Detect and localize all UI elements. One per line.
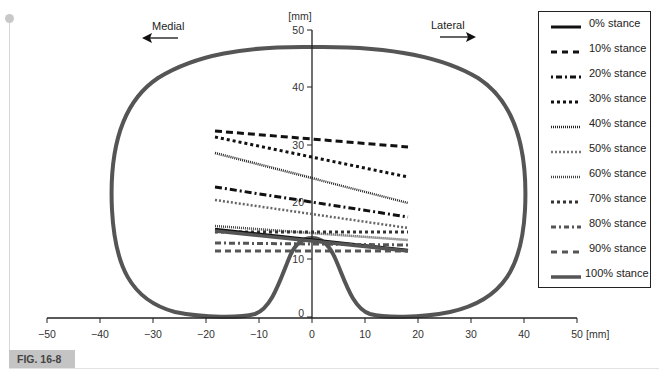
legend-item-60: 60% stance xyxy=(539,166,652,191)
legend-label: 100% stance xyxy=(585,267,649,279)
legend-item-40: 40% stance xyxy=(539,116,652,141)
legend-item-10: 10% stance xyxy=(539,41,652,66)
legend-label: 60% stance xyxy=(589,167,646,179)
x-tick-label: −30 xyxy=(144,328,162,340)
legend-label: 20% stance xyxy=(589,67,646,79)
x-tick-label: 0 xyxy=(309,328,315,340)
legend: 0% stance 10% stance 20% stance 30% stan… xyxy=(538,11,651,288)
y-tick-label: 10 xyxy=(292,253,304,265)
x-tick-label: −10 xyxy=(250,328,268,340)
x-tick-label: 30 xyxy=(465,328,477,340)
legend-label: 0% stance xyxy=(589,17,640,29)
x-tick-label: −50 xyxy=(38,328,56,340)
x-tick-label: 10 xyxy=(359,328,371,340)
legend-item-70: 70% stance xyxy=(539,191,652,216)
legend-item-30: 30% stance xyxy=(539,91,652,116)
dashed-line-icon xyxy=(551,49,585,55)
lateral-label: Lateral xyxy=(431,19,465,31)
medial-label: Medial xyxy=(152,20,184,32)
grey-dash-dot-line-icon xyxy=(551,224,585,230)
y-tick-label: 0 xyxy=(298,307,304,319)
grey-dashed-line-icon xyxy=(551,249,585,255)
medial-indicator: Medial xyxy=(142,20,184,43)
fine-grey-dotted-line-icon xyxy=(551,174,585,180)
legend-item-50: 50% stance xyxy=(539,141,652,166)
y-tick-label: 40 xyxy=(292,81,304,93)
y-axis-unit: [mm] xyxy=(288,10,311,22)
lateral-indicator: Lateral xyxy=(431,19,476,42)
legend-item-90: 90% stance xyxy=(539,241,652,266)
grey-dotted-line-icon xyxy=(551,149,585,155)
y-axis: 0 10 20 30 40 50 [mm] xyxy=(288,10,312,319)
figure-label: FIG. 16-8 xyxy=(9,350,75,368)
legend-label: 50% stance xyxy=(589,142,646,154)
solid-line-icon xyxy=(551,24,585,30)
x-tick-label: 20 xyxy=(412,328,424,340)
legend-label: 70% stance xyxy=(589,192,646,204)
medium-dotted-line-icon xyxy=(551,199,585,205)
legend-label: 40% stance xyxy=(589,117,646,129)
x-tick-label: −40 xyxy=(91,328,109,340)
dash-dot-line-icon xyxy=(551,74,585,80)
y-tick-label: 50 xyxy=(292,24,304,36)
x-axis-unit: [mm] xyxy=(586,328,609,340)
x-tick-label: −20 xyxy=(197,328,215,340)
x-axis: −50 −40 −30 −20 −10 0 10 20 30 40 50 [mm… xyxy=(38,318,609,340)
legend-item-80: 80% stance xyxy=(539,216,652,241)
legend-label: 10% stance xyxy=(589,42,646,54)
dotted-bold-line-icon xyxy=(551,99,585,105)
legend-label: 30% stance xyxy=(589,92,646,104)
tibial-plateau-outline xyxy=(112,47,526,317)
legend-item-0: 0% stance xyxy=(539,16,652,41)
fine-dotted-line-icon xyxy=(551,124,585,130)
legend-item-100: 100% stance xyxy=(539,266,652,291)
legend-item-20: 20% stance xyxy=(539,66,652,91)
x-tick-label: 50 xyxy=(571,328,583,340)
x-tick-label: 40 xyxy=(518,328,530,340)
thick-grey-line-icon xyxy=(551,274,585,280)
y-tick-label: 30 xyxy=(292,139,304,151)
legend-label: 90% stance xyxy=(589,242,646,254)
legend-label: 80% stance xyxy=(589,217,646,229)
